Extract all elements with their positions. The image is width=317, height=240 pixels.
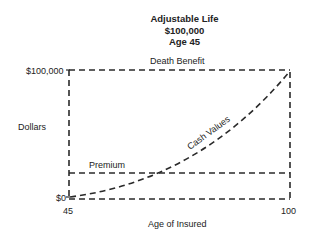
death-benefit-label: Death Benefit (150, 56, 205, 66)
x-axis-label: Age of Insured (148, 219, 207, 229)
cash-values-label: Cash Values (185, 114, 232, 152)
chart-plot: Cash Values (0, 0, 317, 240)
x-tick-right: 100 (281, 206, 296, 216)
y-axis-label: Dollars (18, 122, 46, 132)
y-tick-bottom: $0 (56, 193, 66, 203)
y-tick-top: $100,000 (26, 66, 64, 76)
x-tick-left: 45 (63, 206, 73, 216)
premium-label: Premium (89, 160, 125, 170)
cash-values-curve (70, 71, 290, 197)
